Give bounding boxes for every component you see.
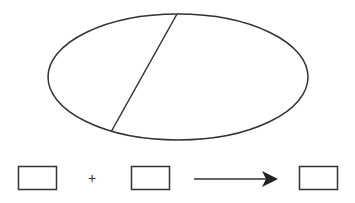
ellipse-shape [48, 14, 308, 140]
diagram-canvas [0, 0, 355, 203]
plus-symbol: + [88, 170, 96, 186]
ellipse-divider-line [111, 14, 177, 132]
product-box[interactable] [300, 167, 338, 190]
reactant-box-2[interactable] [132, 167, 170, 190]
reactant-box-1[interactable] [19, 167, 57, 190]
